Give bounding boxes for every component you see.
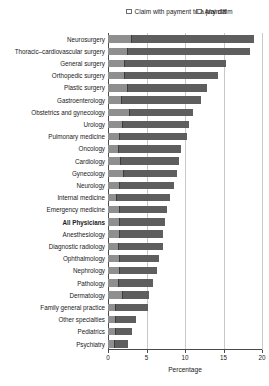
category-label: Pulmonary medicine <box>48 133 105 140</box>
bar-row <box>108 255 262 262</box>
bar-claim-with-payment <box>108 170 124 177</box>
bar-claim-with-payment <box>108 279 119 286</box>
bar-claim-with-payment <box>108 206 120 213</box>
bar-claim-with-payment <box>108 48 128 55</box>
bar-row <box>108 230 262 237</box>
category-label: Nephrology <box>73 267 105 274</box>
bar-claim-with-payment <box>108 316 116 323</box>
bar-row <box>108 109 262 116</box>
bar-row <box>108 291 262 298</box>
bar-any-claim <box>108 96 201 103</box>
bar-row <box>108 72 262 79</box>
bar-row <box>108 84 262 91</box>
bar-claim-with-payment <box>108 291 123 298</box>
bar-row <box>108 304 262 311</box>
bar-row <box>108 96 262 103</box>
category-label: Thoracic–cardiovascular surgery <box>15 48 105 55</box>
bar-row <box>108 218 262 225</box>
bar-claim-with-payment <box>108 35 132 42</box>
legend-item-any-claim: Any claim <box>196 8 233 16</box>
category-label: General surgery <box>60 60 105 67</box>
bar-claim-with-payment <box>108 96 122 103</box>
category-label: Other specialties <box>58 316 105 323</box>
legend-swatch-any-claim <box>196 9 202 15</box>
category-label: Pediatrics <box>78 328 105 335</box>
category-label: Neurology <box>76 182 105 189</box>
bar-row <box>108 157 262 164</box>
bar-claim-with-payment <box>108 218 120 225</box>
category-label: Family general practice <box>40 304 105 311</box>
category-label: Plastic surgery <box>64 84 105 91</box>
category-label: Psychiatry <box>76 341 105 348</box>
bar-claim-with-payment <box>108 133 120 140</box>
bar-claim-with-payment <box>108 145 119 152</box>
bar-claim-with-payment <box>108 243 119 250</box>
bar-claim-with-payment <box>108 72 125 79</box>
bar-row <box>108 243 262 250</box>
category-label: Cardiology <box>75 158 105 165</box>
bar-row <box>108 279 262 286</box>
x-tick-label-0: 0 <box>106 354 110 361</box>
bar-row <box>108 194 262 201</box>
plot-area <box>108 33 262 350</box>
bar-claim-with-payment <box>108 194 117 201</box>
bar-row <box>108 145 262 152</box>
bar-claim-with-payment <box>108 267 120 274</box>
malpractice-claims-bar-chart: Claim with payment to a plaintiff Any cl… <box>0 0 269 386</box>
category-label: Dermatology <box>70 292 105 299</box>
x-tick-label-10: 10 <box>181 354 188 361</box>
bar-row <box>108 121 262 128</box>
bar-row <box>108 133 262 140</box>
bar-claim-with-payment <box>108 255 120 262</box>
category-label: Emergency medicine <box>47 206 105 213</box>
bar-claim-with-payment <box>108 121 123 128</box>
category-axis-labels: NeurosurgeryThoracic–cardiovascular surg… <box>0 33 105 350</box>
category-label: Ophthalmology <box>63 255 105 262</box>
category-label: Diagnostic radiology <box>49 243 105 250</box>
category-label: Internal medicine <box>57 194 105 201</box>
category-label: Orthopedic surgery <box>52 72 105 79</box>
category-label: All Physicians <box>63 219 105 226</box>
bar-claim-with-payment <box>108 109 130 116</box>
bar-claim-with-payment <box>108 304 116 311</box>
category-label: Neurosurgery <box>67 36 105 43</box>
bar-any-claim <box>108 48 250 55</box>
bar-row <box>108 170 262 177</box>
bar-claim-with-payment <box>108 60 125 67</box>
bar-any-claim <box>108 194 170 201</box>
chart-legend: Claim with payment to a plaintiff Any cl… <box>0 6 269 32</box>
bar-row <box>108 340 262 347</box>
legend-swatch-claim-with-payment <box>126 9 132 15</box>
bar-row <box>108 182 262 189</box>
bar-claim-with-payment <box>108 182 120 189</box>
category-label: Urology <box>83 121 105 128</box>
category-label: Gastroenterology <box>57 97 105 104</box>
gridline-20 <box>262 33 263 350</box>
x-axis-title: Percentage <box>108 366 262 373</box>
bar-claim-with-payment <box>108 230 120 237</box>
bar-any-claim <box>108 133 187 140</box>
x-tick-label-20: 20 <box>258 354 265 361</box>
bar-claim-with-payment <box>108 328 116 335</box>
bar-any-claim <box>108 145 181 152</box>
category-label: Oncology <box>79 145 105 152</box>
category-label: Pathology <box>77 280 105 287</box>
category-label: Anesthesiology <box>63 231 105 238</box>
bar-claim-with-payment <box>108 340 115 347</box>
bar-rows <box>108 33 262 350</box>
bar-any-claim <box>108 60 226 67</box>
bar-claim-with-payment <box>108 157 121 164</box>
bar-row <box>108 316 262 323</box>
bar-row <box>108 206 262 213</box>
bar-row <box>108 60 262 67</box>
category-label: Obstetrics and gynecology <box>31 109 105 116</box>
legend-label-any-claim: Any claim <box>205 8 233 16</box>
x-tick-label-5: 5 <box>145 354 149 361</box>
category-label: Gynecology <box>72 170 105 177</box>
bar-row <box>108 267 262 274</box>
x-tick-label-15: 15 <box>220 354 227 361</box>
bar-row <box>108 35 262 42</box>
value-axis: 05101520 <box>108 350 262 364</box>
bar-row <box>108 48 262 55</box>
bar-row <box>108 328 262 335</box>
